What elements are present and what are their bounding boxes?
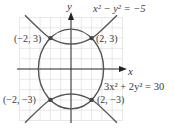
x-axis-arrow-icon xyxy=(119,66,127,72)
ellipse-equation: 3x² + 2y² = 30 xyxy=(104,81,164,92)
x-axis-label: x xyxy=(127,65,133,77)
point-neg2-neg3 xyxy=(48,98,52,102)
point-label-top-right: (2, 3) xyxy=(96,33,118,45)
point-neg2-3 xyxy=(48,36,52,40)
point-label-top-left: (−2, 3) xyxy=(14,33,41,45)
point-label-bottom-left: (−2, −3) xyxy=(3,94,36,106)
point-2-3 xyxy=(89,36,93,40)
y-axis-label: y xyxy=(66,0,72,12)
point-label-bottom-right: (2, −3) xyxy=(97,94,124,106)
y-axis-arrow-icon xyxy=(68,12,74,20)
figure: x y (−2, 3) (2, 3) (−2, −3) (2, −3) x² −… xyxy=(0,0,174,137)
hyperbola-equation: x² − y² = −5 xyxy=(92,3,146,14)
point-2-neg3 xyxy=(89,98,93,102)
